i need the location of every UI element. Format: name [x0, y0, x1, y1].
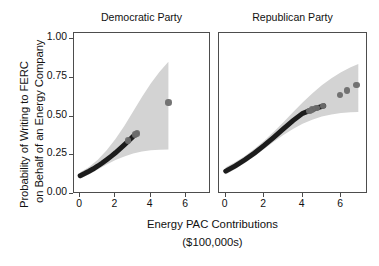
x-tick-mark — [263, 193, 264, 197]
data-point — [353, 82, 359, 88]
x-tick-label: 2 — [253, 198, 273, 209]
x-tick-label: 2 — [104, 198, 124, 209]
confidence-band-and-fit — [74, 33, 209, 193]
y-axis-title-line1: Probability of Writing to FERC — [18, 61, 30, 208]
panel-democratic-party — [73, 32, 210, 193]
x-tick-label: 0 — [69, 198, 89, 209]
x-tick-mark — [225, 193, 226, 197]
panel-republican-party — [218, 32, 367, 193]
data-point — [134, 130, 140, 136]
plot-area-democratic — [74, 33, 209, 192]
y-axis: 1.000.750.500.250.00 — [46, 0, 73, 215]
data-point — [165, 99, 171, 105]
facet-title-democratic: Democratic Party — [73, 8, 210, 25]
x-tick-mark — [114, 193, 115, 197]
x-tick-mark — [340, 193, 341, 197]
x-axis-republican: 0246 — [218, 193, 367, 215]
x-tick-label: 4 — [140, 198, 160, 209]
y-tick-label: 0.75 — [37, 70, 67, 81]
x-tick-mark — [185, 193, 186, 197]
x-axis-title-line1: Energy PAC Contributions — [46, 218, 379, 230]
facet-title-republican: Republican Party — [218, 8, 367, 25]
x-tick-mark — [302, 193, 303, 197]
y-tick-label: 0.00 — [37, 186, 67, 197]
x-tick-label: 4 — [292, 198, 312, 209]
chart-figure: Probability of Writing to FERC on Behalf… — [0, 0, 379, 266]
x-tick-label: 6 — [330, 198, 350, 209]
y-tick-label: 0.25 — [37, 147, 67, 158]
confidence-band — [80, 62, 168, 179]
x-tick-mark — [79, 193, 80, 197]
y-tick-label: 1.00 — [37, 31, 67, 42]
plot-area-republican — [219, 33, 366, 192]
x-axis-title-line2: ($100,000s) — [46, 236, 379, 248]
x-tick-label: 0 — [215, 198, 235, 209]
y-axis-title-line2: on Behalf of an Energy Company — [33, 40, 45, 203]
x-tick-mark — [150, 193, 151, 197]
x-axis-democratic: 0246 — [73, 193, 210, 215]
data-point — [344, 87, 350, 93]
confidence-band-and-fit — [219, 33, 366, 193]
data-point — [125, 137, 131, 143]
y-tick-label: 0.50 — [37, 109, 67, 120]
x-tick-label: 6 — [175, 198, 195, 209]
data-point — [313, 105, 319, 111]
